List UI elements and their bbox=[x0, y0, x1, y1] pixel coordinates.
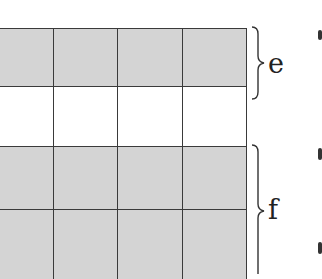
grid-cell bbox=[118, 209, 183, 279]
clipped-glyph bbox=[318, 242, 322, 254]
grid-cell bbox=[54, 28, 118, 86]
clipped-glyph bbox=[318, 148, 322, 160]
brace-f-icon bbox=[250, 144, 266, 274]
grid-cell bbox=[183, 28, 247, 86]
grid-row-blank bbox=[0, 86, 247, 146]
grid-diagram bbox=[0, 28, 247, 278]
grid-cell bbox=[0, 28, 54, 86]
grid-cell bbox=[54, 209, 118, 279]
grid-cell bbox=[183, 146, 247, 209]
grid-row-f2 bbox=[0, 209, 247, 279]
grid-cell bbox=[54, 146, 118, 209]
grid-cell bbox=[118, 146, 183, 209]
grid-row-f1 bbox=[0, 146, 247, 209]
grid-cell bbox=[118, 86, 183, 146]
brace-e-icon bbox=[250, 26, 266, 100]
brace-label-f: f bbox=[268, 196, 278, 223]
brace-label-e: e bbox=[268, 50, 284, 77]
grid-cell bbox=[183, 209, 247, 279]
grid-cell bbox=[0, 86, 54, 146]
clipped-glyph bbox=[318, 30, 322, 40]
grid-cell bbox=[183, 86, 247, 146]
grid-cell bbox=[118, 28, 183, 86]
grid-row-e bbox=[0, 28, 247, 86]
grid-cell bbox=[0, 209, 54, 279]
grid-cell bbox=[54, 86, 118, 146]
grid-cell bbox=[0, 146, 54, 209]
